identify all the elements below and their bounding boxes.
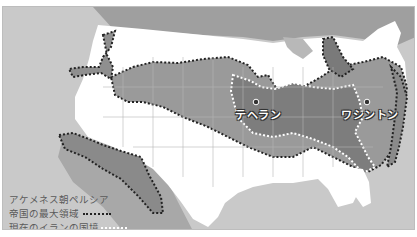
map-frame: テヘラン ワシントン アケメネス朝ペルシア 帝国の最大領域 現在のイランの国境 (2, 6, 415, 230)
map-legend: アケメネス朝ペルシア 帝国の最大領域 現在のイランの国境 (9, 193, 127, 230)
legend-empire-label-1: アケメネス朝ペルシア (9, 193, 109, 207)
legend-empire-line2: 帝国の最大領域 (9, 207, 127, 221)
tehran-label: テヘラン (235, 106, 281, 122)
white-dotted-line-icon (101, 227, 127, 229)
black-dotted-line-icon (83, 213, 111, 215)
legend-iran: 現在のイランの国境 (9, 221, 127, 230)
legend-empire-label-2: 帝国の最大領域 (9, 207, 79, 221)
legend-empire-line1: アケメネス朝ペルシア (9, 193, 127, 207)
washington-label: ワシントン (341, 106, 399, 122)
tehran-marker-icon (253, 99, 259, 105)
washington-marker-icon (364, 99, 370, 105)
legend-iran-label: 現在のイランの国境 (9, 221, 99, 230)
